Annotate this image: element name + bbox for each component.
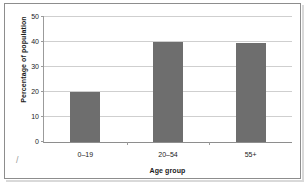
- x-axis-tick-label: 20–54: [158, 151, 177, 158]
- x-axis-title: Age group: [43, 167, 292, 174]
- y-axis-tick-label: 50: [31, 13, 39, 20]
- x-axis-tick-label: 0–19: [78, 151, 94, 158]
- y-axis-tick-label: 20: [31, 88, 39, 95]
- x-axis-tick-mark: [127, 142, 128, 145]
- x-axis-tick-mark: [209, 142, 210, 145]
- y-axis-tick-label: 10: [31, 113, 39, 120]
- frame-shadow-right: [302, 5, 304, 182]
- y-axis-title: Percentage of population: [20, 0, 27, 120]
- bar-group: 0–19: [44, 17, 127, 142]
- bar: [153, 42, 183, 142]
- frame-shadow-bottom: [6, 180, 303, 182]
- scan-artifact-speck: /: [16, 156, 21, 165]
- bar: [70, 92, 100, 142]
- y-axis-tick-label: 40: [31, 38, 39, 45]
- y-axis-tick-label: 0: [35, 138, 39, 145]
- y-axis-tick-label: 30: [31, 63, 39, 70]
- x-axis-tick-label: 55+: [245, 151, 257, 158]
- bar-group: 20–54: [127, 17, 210, 142]
- plot-area: 010203040500–1920–5455+: [43, 17, 292, 143]
- bar-group: 55+: [209, 17, 292, 142]
- bar-chart: Percentage of population 010203040500–19…: [5, 4, 302, 180]
- bar: [236, 43, 266, 142]
- figure-frame: Percentage of population 010203040500–19…: [4, 3, 301, 179]
